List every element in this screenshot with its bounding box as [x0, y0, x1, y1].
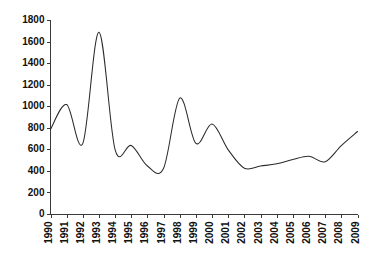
y-tick-label: 600 — [28, 143, 45, 154]
line-chart: 020040060080010001200140016001800 199019… — [0, 0, 377, 261]
x-tick-label: 1997 — [156, 221, 167, 244]
y-tick-label: 800 — [28, 122, 45, 133]
x-tick-label: 2008 — [333, 221, 344, 244]
x-tick-label: 2000 — [204, 221, 215, 244]
x-tick-label: 1990 — [43, 221, 54, 244]
x-tick-label: 2009 — [350, 221, 361, 244]
x-tick-label: 1999 — [188, 221, 199, 244]
x-tick-label: 2004 — [269, 221, 280, 244]
x-tick-label: 1994 — [107, 221, 118, 244]
data-series-group — [51, 32, 358, 173]
y-tick-label: 0 — [39, 208, 45, 219]
x-tick-label: 2003 — [253, 221, 264, 244]
y-tick-label: 400 — [28, 165, 45, 176]
x-tick-label: 2002 — [236, 221, 247, 244]
y-tick-label: 1000 — [22, 100, 45, 111]
x-tick-label: 1993 — [91, 221, 102, 244]
x-axis: 1990199119921993199419951996199719981999… — [43, 215, 361, 244]
x-tick-label: 1996 — [139, 221, 150, 244]
y-tick-label: 1400 — [22, 57, 45, 68]
y-tick-label: 200 — [28, 187, 45, 198]
x-tick-label: 1995 — [123, 221, 134, 244]
y-tick-label: 1800 — [22, 14, 45, 25]
x-tick-label: 2006 — [301, 221, 312, 244]
x-tick-label: 1998 — [172, 221, 183, 244]
chart-canvas: 020040060080010001200140016001800 199019… — [0, 0, 377, 261]
x-tick-label: 1992 — [75, 221, 86, 244]
x-tick-label: 2007 — [317, 221, 328, 244]
x-tick-label: 2005 — [285, 221, 296, 244]
data-line — [51, 32, 358, 173]
y-tick-label: 1200 — [22, 79, 45, 90]
y-tick-label: 1600 — [22, 36, 45, 47]
x-tick-label: 1991 — [59, 221, 70, 244]
y-axis: 020040060080010001200140016001800 — [22, 14, 50, 219]
x-tick-label: 2001 — [220, 221, 231, 244]
